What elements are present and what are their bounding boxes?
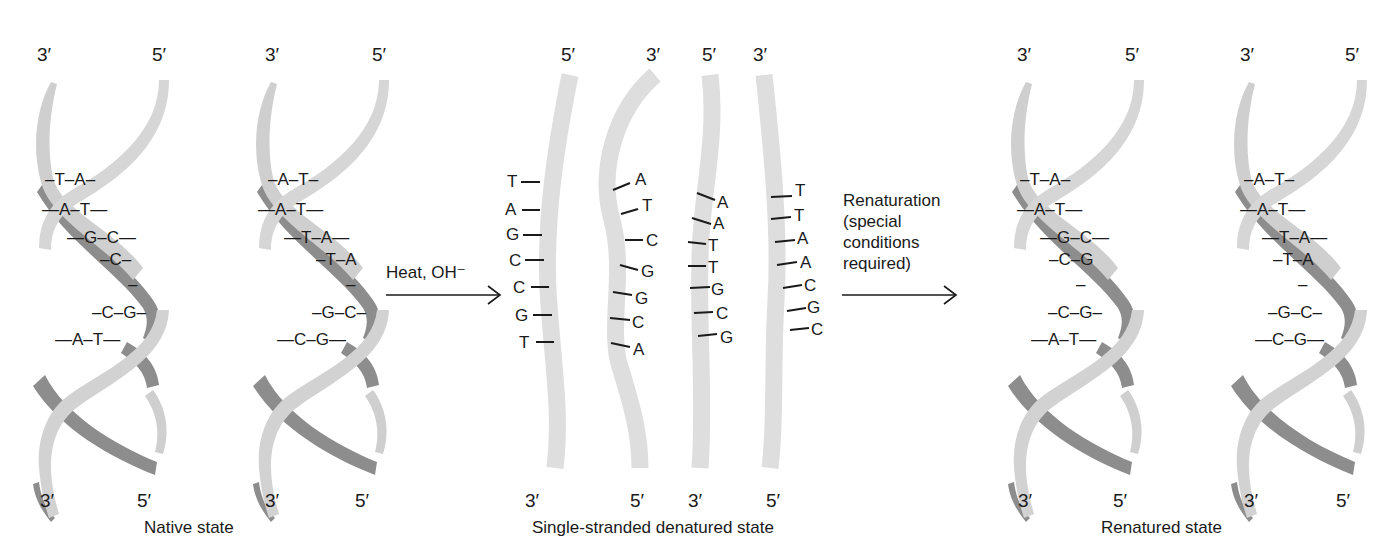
native-1-base-pair: –C– [100,250,131,270]
strand-4-base: A [800,253,811,273]
single-strand-4 [764,75,777,468]
native-2-base-pair: —C–G— [277,330,346,350]
heat-step-label: Heat, OH⁻ [386,262,466,283]
native-helix-2 [253,80,389,522]
renatured-2-base-pair: – [1298,275,1307,295]
native-helix-1 [33,80,169,522]
strand-3-base: A [717,193,728,213]
renaturation-label-line: Renaturation [843,190,940,211]
renatured-2-bottom-5prime: 5′ [1336,490,1350,512]
renatured-2-base-pair: –A–T– [1244,170,1294,190]
native-2-base-pair: —T–A— [284,228,349,248]
strand-2-base: G [641,262,654,282]
renaturation-label-line: required) [843,253,940,274]
native-2-base-pair: –G–C– [312,303,366,323]
strand-4-bottom-label: 5′ [766,490,780,512]
native-2-base-pair: –T–A [316,250,357,270]
renatured-1-base-pair: – [1076,275,1085,295]
strand-1-base: C [513,278,525,298]
strand-1-base: G [506,225,519,245]
native-1-base-pair: —A–T— [55,330,120,350]
renatured-2-top-3prime: 3′ [1240,44,1254,66]
strand-4-base: C [811,320,823,340]
strand-1-base: G [515,306,528,326]
strand-1-base: T [519,333,529,353]
strand-3-base: G [720,328,733,348]
strand-4-base: T [794,206,804,226]
strand-3-base: G [711,280,724,300]
single-strand-1 [547,75,570,468]
native-2-base-pair: —A–T— [258,200,323,220]
renatured-1-base-pair: —A–T— [1031,330,1096,350]
native-1-base-pair: – [128,275,137,295]
strand-3-base: T [708,236,718,256]
renaturation-step-label: Renaturation (special conditions require… [843,190,940,274]
strand-2-base: A [635,170,646,190]
renatured-1-bottom-5prime: 5′ [1113,490,1127,512]
native-state-caption: Native state [144,518,234,538]
strand-1-base: C [509,251,521,271]
renatured-1-base-pair: –C–G– [1048,303,1102,323]
strand-1-top-label: 5′ [561,44,575,66]
native-1-bottom-3prime: 3′ [40,490,54,512]
denatured-state-caption: Single-stranded denatured state [532,518,774,538]
native-1-top-3prime: 3′ [37,44,51,66]
renatured-2-base-pair: —T–A— [1262,228,1327,248]
strand-3-bottom-label: 3′ [688,490,702,512]
renatured-helix-1 [1008,80,1144,522]
renatured-1-bottom-3prime: 3′ [1018,490,1032,512]
renaturation-label-line: (special [843,211,940,232]
renatured-2-top-5prime: 5′ [1345,44,1359,66]
native-2-base-pair: – [346,275,355,295]
strand-3-top-label: 5′ [702,44,716,66]
renatured-1-base-pair: –T–A– [1020,170,1070,190]
renatured-1-base-pair: –C–G [1049,250,1093,270]
strand-4-base: T [795,181,805,201]
native-1-bottom-5prime: 5′ [137,490,151,512]
renatured-1-top-5prime: 5′ [1125,44,1139,66]
native-2-bottom-3prime: 3′ [265,490,279,512]
strand-3-base: A [713,214,724,234]
renatured-2-base-pair: —A–T— [1240,200,1305,220]
native-1-base-pair: —A–T— [42,200,107,220]
strand-1-base: A [505,200,516,220]
strand-1-bottom-label: 3′ [525,490,539,512]
strand-4-top-label: 3′ [753,44,767,66]
renaturation-label-line: conditions [843,232,940,253]
native-1-base-pair: –T–A– [45,170,95,190]
renatured-2-bottom-3prime: 3′ [1244,490,1258,512]
renatured-helix-2 [1231,80,1367,522]
native-2-bottom-5prime: 5′ [355,490,369,512]
strand-2-bottom-label: 5′ [630,490,644,512]
strand-2-base: G [635,289,648,309]
strand-1-base: T [507,172,517,192]
native-2-top-5prime: 5′ [372,44,386,66]
renatured-state-caption: Renatured state [1101,518,1222,538]
strand-4-base: A [797,229,808,249]
native-1-top-5prime: 5′ [152,44,166,66]
native-1-base-pair: —G–C— [67,228,136,248]
native-2-top-3prime: 3′ [265,44,279,66]
strand-2-base: C [646,231,658,251]
strand-4-base: C [804,276,816,296]
strand-2-base: A [633,340,644,360]
strand-3-base: C [716,304,728,324]
renatured-2-base-pair: –G–C– [1268,303,1322,323]
native-1-base-pair: –C–G– [92,303,146,323]
renatured-2-base-pair: –T–A [1273,250,1314,270]
diagram-graphics [0,0,1395,560]
native-2-base-pair: –A–T– [268,170,318,190]
strand-2-base: T [642,196,652,216]
renatured-1-top-3prime: 3′ [1017,44,1031,66]
renatured-1-base-pair: —A–T— [1017,200,1082,220]
strand-3-base: T [708,258,718,278]
arrows [386,286,956,304]
strand-2-base: C [632,313,644,333]
renatured-1-base-pair: —G–C— [1040,228,1109,248]
renatured-2-base-pair: —C–G— [1255,330,1324,350]
strand-4-base: G [807,298,820,318]
strand-2-top-label: 3′ [646,44,660,66]
